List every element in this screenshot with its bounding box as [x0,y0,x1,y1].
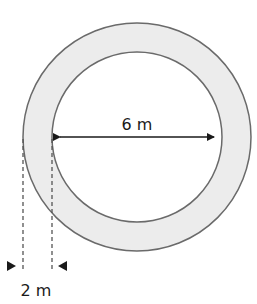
ring-width-label: 2 m [21,281,52,300]
ring-width-arrow-left [7,261,16,271]
diameter-label: 6 m [122,115,153,134]
annulus-diagram: 6 m 2 m [0,0,257,304]
ring-width-arrow-right [58,261,67,271]
